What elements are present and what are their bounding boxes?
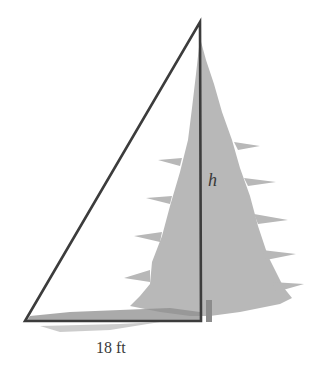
tree-trunk xyxy=(206,300,212,322)
base-length-label: 18 ft xyxy=(96,339,126,357)
tree-triangle-figure xyxy=(0,0,314,368)
height-label: h xyxy=(208,170,217,191)
